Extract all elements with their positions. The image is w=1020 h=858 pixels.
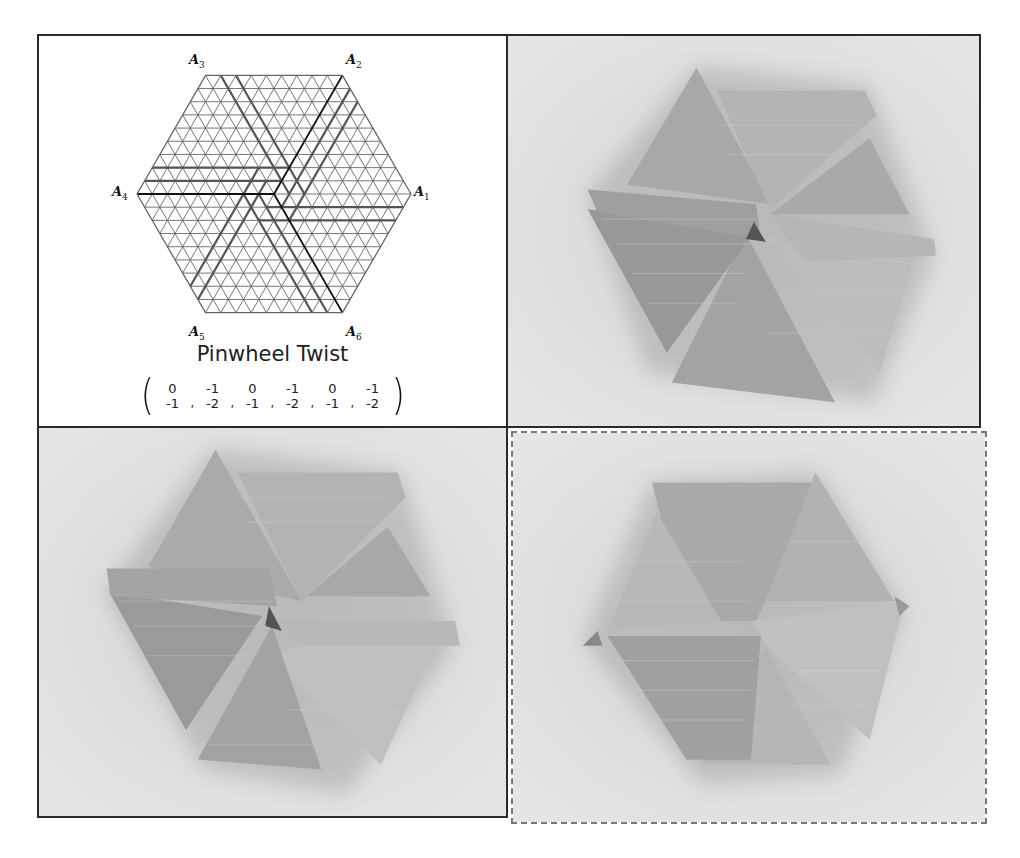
vertex-label-a1: A1 bbox=[414, 184, 430, 202]
hexagon-crease-pattern bbox=[39, 36, 506, 336]
vector-bottom-value: -1 bbox=[246, 396, 259, 411]
vector-top-value: -1 bbox=[286, 381, 299, 396]
vertex-label-a3: A3 bbox=[189, 52, 205, 70]
folded-model-photo bbox=[508, 36, 979, 426]
photo-top-right bbox=[506, 34, 981, 428]
vector-columns: 0-1,-1-2,0-1,-1-2,0-1,-1-2 bbox=[156, 381, 390, 411]
vector-bottom-value: -1 bbox=[326, 396, 339, 411]
vector-column: -1-2 bbox=[356, 381, 390, 411]
right-paren: ) bbox=[391, 376, 404, 416]
crease-pattern-panel: A1 A2 A3 A4 A5 A6 Pinwheel Twist ( 0-1,-… bbox=[37, 34, 508, 428]
vector-top-value: 0 bbox=[328, 381, 336, 396]
folded-model-photo bbox=[513, 433, 985, 822]
vector-column: 0-1 bbox=[316, 381, 350, 411]
vector-top-value: 0 bbox=[248, 381, 256, 396]
vertex-label-a5: A5 bbox=[189, 324, 205, 342]
left-paren: ( bbox=[141, 376, 154, 416]
vector-matrix: ( 0-1,-1-2,0-1,-1-2,0-1,-1-2 ) bbox=[39, 376, 506, 416]
vector-column: -1-2 bbox=[196, 381, 230, 411]
pinwheel-twist-model-view-2 bbox=[39, 428, 506, 816]
vertex-label-a2: A2 bbox=[346, 52, 362, 70]
vector-column: 0-1 bbox=[156, 381, 190, 411]
vector-bottom-value: -2 bbox=[286, 396, 299, 411]
diagram-title: Pinwheel Twist bbox=[39, 342, 506, 366]
folded-model-photo bbox=[39, 428, 506, 816]
photo-bottom-right bbox=[511, 431, 987, 824]
photo-bottom-left bbox=[37, 426, 508, 818]
vector-column: -1-2 bbox=[276, 381, 310, 411]
vector-top-value: 0 bbox=[168, 381, 176, 396]
vector-bottom-value: -1 bbox=[166, 396, 179, 411]
vector-top-value: -1 bbox=[206, 381, 219, 396]
vector-bottom-value: -2 bbox=[206, 396, 219, 411]
vector-bottom-value: -2 bbox=[366, 396, 379, 411]
vector-column: 0-1 bbox=[236, 381, 270, 411]
pinwheel-twist-model-view-1 bbox=[508, 36, 979, 426]
vertex-label-a4: A4 bbox=[112, 184, 128, 202]
vertex-label-a6: A6 bbox=[346, 324, 362, 342]
pinwheel-twist-model-view-3 bbox=[513, 433, 985, 822]
vector-top-value: -1 bbox=[366, 381, 379, 396]
